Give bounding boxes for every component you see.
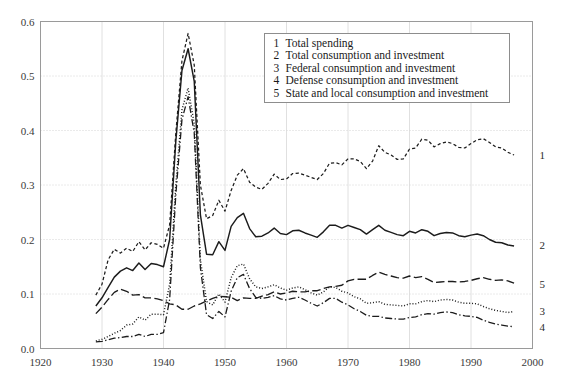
series-end-label-2: 2: [540, 239, 546, 251]
legend: 1Total spending2Total consumption and in…: [265, 34, 510, 103]
y-tick-label: 0.4: [21, 125, 35, 137]
legend-label-4: Defense consumption and investment: [286, 74, 460, 87]
line-chart: 0.00.10.20.30.40.50.6 192019301940195019…: [0, 0, 582, 382]
series-line-4: [96, 97, 514, 342]
legend-label-5: State and local consumption and investme…: [286, 87, 490, 100]
x-tick-label: 1990: [460, 356, 483, 368]
x-tick-label: 1930: [91, 356, 114, 368]
x-tick-label: 2000: [522, 356, 545, 368]
legend-key-5: 5: [274, 87, 280, 99]
series-line-3: [96, 88, 514, 341]
x-tick-label: 1940: [153, 356, 176, 368]
legend-label-1: Total spending: [286, 37, 354, 50]
series-end-label-5: 5: [540, 278, 546, 290]
y-tick-label: 0.5: [21, 70, 35, 82]
chart-container: 0.00.10.20.30.40.50.6 192019301940195019…: [0, 0, 582, 382]
y-tick-label: 0.3: [21, 179, 35, 191]
y-tick-label: 0.2: [21, 234, 35, 246]
y-axis-tick-labels: 0.00.10.20.30.40.50.6: [21, 16, 35, 355]
x-tick-label: 1980: [399, 356, 422, 368]
y-tick-label: 0.1: [21, 288, 35, 300]
series-line-5: [96, 272, 514, 313]
legend-label-3: Federal consumption and investment: [286, 62, 456, 75]
legend-key-3: 3: [274, 62, 280, 74]
legend-key-2: 2: [274, 49, 280, 61]
x-tick-label: 1960: [276, 356, 299, 368]
legend-label-2: Total consumption and investment: [286, 49, 445, 62]
legend-key-4: 4: [274, 74, 280, 86]
x-tick-label: 1970: [337, 356, 360, 368]
x-axis-tick-labels: 192019301940195019601970198019902000: [30, 356, 545, 368]
series-end-label-3: 3: [540, 305, 546, 317]
y-tick-label: 0.0: [21, 343, 35, 355]
x-tick-label: 1920: [30, 356, 53, 368]
legend-key-1: 1: [274, 37, 280, 49]
series-end-label-1: 1: [540, 149, 546, 161]
y-tick-label: 0.6: [21, 16, 35, 28]
series-end-labels: 12534: [540, 149, 546, 333]
series-end-label-4: 4: [540, 321, 546, 333]
x-tick-label: 1950: [214, 356, 237, 368]
